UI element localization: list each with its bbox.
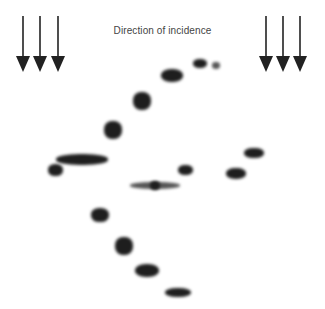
diffraction-spot bbox=[48, 164, 63, 176]
diffraction-spot bbox=[165, 288, 191, 297]
down-arrow-icon bbox=[274, 16, 292, 72]
diffraction-spot bbox=[226, 168, 246, 179]
down-arrow-icon bbox=[14, 16, 32, 72]
down-arrow-icon bbox=[291, 16, 309, 72]
diffraction-spot bbox=[212, 62, 220, 69]
diffraction-spot bbox=[104, 121, 122, 139]
diagram-canvas: Direction of incidence bbox=[0, 0, 325, 309]
diffraction-spot bbox=[91, 208, 109, 222]
down-arrow-icon bbox=[31, 16, 49, 72]
diffraction-spot bbox=[193, 59, 207, 68]
diffraction-spot bbox=[150, 181, 160, 190]
diffraction-spot bbox=[133, 92, 151, 110]
diffraction-spot bbox=[115, 237, 133, 255]
diffraction-spot bbox=[135, 264, 159, 277]
diffraction-spot bbox=[161, 69, 183, 82]
diffraction-spot bbox=[56, 154, 108, 165]
diffraction-spot bbox=[178, 165, 193, 175]
diffraction-spot bbox=[244, 148, 264, 158]
down-arrow-icon bbox=[49, 16, 67, 72]
down-arrow-icon bbox=[257, 16, 275, 72]
